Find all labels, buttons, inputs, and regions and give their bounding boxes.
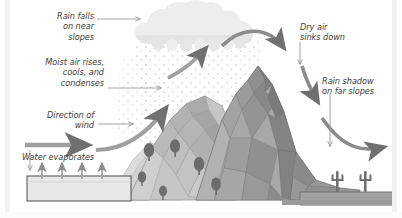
page-edge-bottom xyxy=(0,212,402,218)
label-water-evaporates: Water evaporates xyxy=(22,152,126,162)
water-body xyxy=(27,176,131,201)
diagram-container: Rain falls on near slopes Moist air rise… xyxy=(0,0,402,218)
page-edge-left xyxy=(5,0,10,218)
label-direction-of-wind: Direction of wind xyxy=(12,110,94,131)
label-moist-air: Moist air rises, cools, and condenses xyxy=(8,57,104,88)
label-dry-air-sinks-down: Dry air sinks down xyxy=(300,22,372,43)
page-edge-right xyxy=(392,0,397,218)
label-rain-shadow: Rain shadow on far slopes xyxy=(322,76,400,97)
label-rain-falls: Rain falls on near slopes xyxy=(22,11,94,42)
